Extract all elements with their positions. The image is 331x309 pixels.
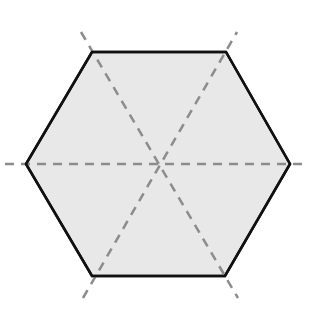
hexagon-symmetry-diagram <box>0 0 331 309</box>
